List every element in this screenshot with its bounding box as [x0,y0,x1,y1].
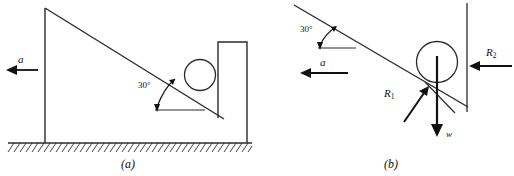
ground-hatching [8,143,252,152]
acceleration-label-b: a [320,57,326,68]
force-label-r1: R1 [384,88,394,100]
figure-canvas [0,0,514,176]
angle-arc-arrowhead-bottom [154,104,160,112]
panel-a-graphics [6,8,252,152]
angle-label-a: 30° [138,80,151,90]
force-label-w: w [446,130,452,139]
acceleration-arrow-b-head [300,68,311,78]
force-label-r1-symbol: R [384,87,391,99]
vertical-wall [218,42,247,143]
physics-figure: 30° a (a) 30° a R1 R2 w (b) [0,0,514,176]
r1-arrow-shaft [404,93,424,122]
force-label-r2: R2 [486,47,496,59]
weight-arrow-head [431,124,443,137]
cylinder-circle [185,60,216,91]
acceleration-arrow-a-head [6,65,17,75]
inclined-plane [45,8,224,119]
force-label-r2-subscript: 2 [493,51,497,60]
panel-caption-a: (a) [121,157,135,172]
force-label-r2-symbol: R [486,46,493,58]
angle-label-b: 30° [300,24,313,34]
acceleration-label-a: a [18,54,24,65]
force-label-r1-subscript: 1 [391,92,395,101]
angle-arc-arrowhead-bottom-b [317,42,323,50]
r2-arrow-head [469,61,480,71]
panel-b-graphics [294,3,512,137]
panel-caption-b: (b) [384,157,398,172]
